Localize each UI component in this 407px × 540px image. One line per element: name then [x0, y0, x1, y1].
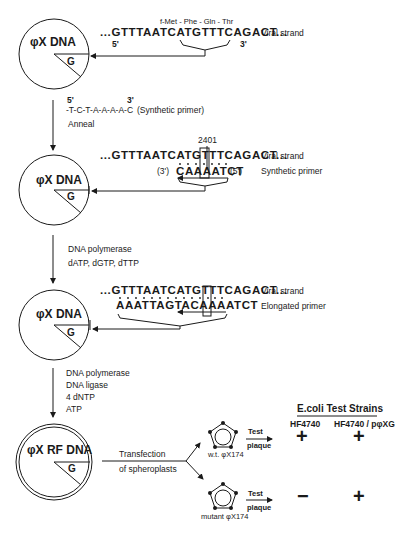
primer-5-prime: (5'): [230, 167, 242, 176]
viral-strand-label-1: Viral strand: [261, 29, 304, 38]
phage-wt: w.t. φX174: [208, 451, 244, 459]
circle-label-3: φX DNA: [36, 308, 82, 320]
primer-label: (Synthetic primer): [137, 106, 204, 115]
position-2401: 2401: [198, 136, 217, 145]
viral-sequence-3: ...GTTTAATCATGTTTCAGACT...: [100, 285, 287, 297]
circle-label-4: φX RF DNA: [27, 444, 92, 456]
transfection-label-0: Transfection: [119, 450, 165, 459]
primer-five-prime: 5': [67, 96, 74, 105]
result-wt-hf4740: +: [296, 426, 308, 446]
region-g-1: G: [67, 57, 75, 67]
primer-3-prime: (3'): [157, 167, 169, 176]
test-label-wt-1: plaque: [247, 442, 271, 450]
circle-label-2: φX DNA: [36, 174, 82, 186]
results-title: E.coli Test Strains: [297, 404, 383, 414]
test-label-mutant-0: Test: [248, 490, 263, 498]
diagram-lines: [0, 0, 407, 540]
elongated-primer-label: Elongated primer: [261, 302, 326, 311]
reagent-2-3: ATP: [66, 405, 82, 414]
synthetic-primer-label: Synthetic primer: [261, 167, 322, 176]
primer-sequence: -T-C-T-A-A-A-A-C: [66, 106, 133, 115]
five-prime-1: 5': [112, 40, 119, 49]
phage-mutant: mutant φX174: [201, 513, 248, 521]
test-label-mutant-1: plaque: [247, 504, 271, 512]
test-label-wt-0: Test: [248, 428, 263, 436]
reagent-2-0: DNA polymerase: [66, 369, 130, 378]
reagent-2-1: DNA ligase: [66, 381, 108, 390]
result-mutant-hf4740: −: [297, 486, 309, 506]
region-g-3: G: [67, 328, 75, 338]
result-wt-hf4740-pphixg: +: [353, 426, 365, 446]
transfection-label-1: of spheroplasts: [119, 465, 177, 474]
codon-labels: f-Met - Phe - Gln - Thr: [160, 18, 233, 26]
region-g-2: G: [67, 192, 75, 202]
viral-strand-label-2: Viral strand: [261, 152, 304, 161]
viral-sequence-1: ...GTTTAATCATGTTTCAGACT...: [100, 27, 287, 39]
viral-sequence-2: ...GTTTAATCATGTTTCAGACT...: [100, 150, 287, 162]
viral-strand-label-3: Viral strand: [261, 287, 304, 296]
reagent-1-0: DNA polymerase: [68, 245, 132, 254]
reagent-2-2: 4 dNTP: [66, 393, 95, 402]
result-mutant-hf4740-pphixg: +: [353, 486, 365, 506]
region-g-4: G: [68, 464, 76, 474]
three-prime-1: 3': [240, 40, 247, 49]
anneal-label: Anneal: [68, 120, 94, 129]
circle-label-1: φX DNA: [30, 36, 76, 48]
reagent-1-1: dATP, dGTP, dTTP: [68, 259, 139, 268]
primer-three-prime: 3': [127, 96, 134, 105]
elongated-primer-sequence: AAATTAGTACAAAATCT: [116, 300, 258, 312]
